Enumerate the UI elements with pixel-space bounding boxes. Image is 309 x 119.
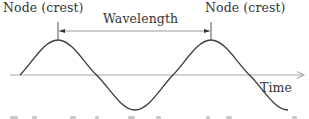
wavelength-arrow-left-icon: [59, 29, 65, 33]
wave-diagram: Node (crest) Node (crest) Wavelength Tim…: [0, 0, 309, 119]
node-crest-left-label: Node (crest): [3, 1, 84, 15]
wavelength-arrow-right-icon: [204, 29, 210, 33]
wavelength-label: Wavelength: [103, 12, 178, 26]
time-axis-label: Time: [260, 81, 292, 95]
node-crest-right-label: Node (crest): [205, 1, 286, 15]
clipped-caption-fragment: [0, 114, 309, 119]
